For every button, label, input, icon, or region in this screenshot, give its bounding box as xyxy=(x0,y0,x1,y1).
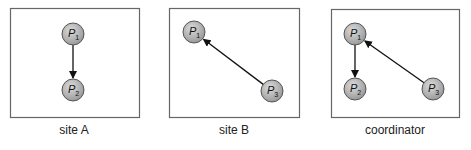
process-node-p2: P2 xyxy=(344,78,366,100)
caption-site-a: site A xyxy=(9,123,139,137)
panel-site-a: P1P2 xyxy=(11,9,140,118)
process-node-p3: P3 xyxy=(261,80,283,102)
process-node-p1: P1 xyxy=(344,23,366,45)
process-node-p2: P2 xyxy=(62,79,84,101)
panel-site-b: P1P3 xyxy=(170,9,300,118)
panel-coordinator: P1P2P3 xyxy=(332,10,460,118)
process-node-p1: P1 xyxy=(62,23,84,45)
process-node-p3: P3 xyxy=(422,78,444,100)
process-node-p1: P1 xyxy=(183,21,205,43)
caption-coordinator: coordinator xyxy=(330,123,460,137)
caption-site-b: site B xyxy=(169,123,299,137)
